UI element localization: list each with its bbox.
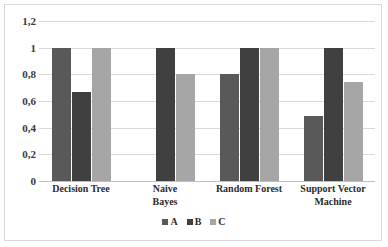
legend-item-c[interactable]: C [210, 217, 225, 227]
y-axis-tick-label: 0,4 [6, 122, 36, 133]
chart-legend: ABC [5, 217, 383, 227]
x-axis-category-label-line: Decision Tree [39, 183, 123, 196]
y-axis-tick-label: 0,6 [6, 96, 36, 107]
y-axis: 1,210,80,60,40,20 [5, 21, 36, 181]
bars-layer [39, 21, 375, 181]
bar-b-2 [240, 48, 259, 181]
bar-a-2 [220, 74, 239, 181]
bar-c-1 [176, 74, 195, 181]
x-axis-category-label: Random Forest [207, 183, 291, 196]
legend-swatch-icon [187, 219, 193, 225]
x-axis-category-label-line: Naive [123, 183, 207, 196]
x-axis: Decision TreeNaiveBayesRandom ForestSupp… [39, 183, 375, 219]
bar-c-2 [260, 48, 279, 181]
x-axis-category-label-line: Bayes [123, 196, 207, 209]
y-axis-tick-label: 0,8 [6, 69, 36, 80]
legend-label: C [218, 217, 225, 227]
legend-label: A [170, 217, 177, 227]
x-axis-category-label: NaiveBayes [123, 183, 207, 208]
bar-c-3 [344, 82, 363, 181]
legend-item-a[interactable]: A [162, 217, 177, 227]
bar-b-0 [72, 92, 91, 181]
legend-item-b[interactable]: B [187, 217, 202, 227]
y-axis-tick-label: 1,2 [6, 16, 36, 27]
legend-swatch-icon [162, 219, 168, 225]
bar-b-3 [324, 48, 343, 181]
bar-b-1 [156, 48, 175, 181]
bar-a-0 [52, 48, 71, 181]
y-axis-tick-label: 0 [6, 176, 36, 187]
x-axis-category-label-line: Random Forest [207, 183, 291, 196]
bar-c-0 [92, 48, 111, 181]
x-axis-category-label-line: Support Vector [291, 183, 375, 196]
x-axis-category-label-line: Machine [291, 196, 375, 209]
y-axis-tick-label: 1 [6, 42, 36, 53]
x-axis-category-label: Support VectorMachine [291, 183, 375, 208]
x-axis-category-label: Decision Tree [39, 183, 123, 196]
bar-a-3 [304, 116, 323, 181]
legend-label: B [195, 217, 202, 227]
chart-container: 1,210,80,60,40,20 Decision TreeNaiveBaye… [4, 4, 382, 241]
legend-swatch-icon [210, 219, 216, 225]
y-axis-tick-label: 0,2 [6, 149, 36, 160]
axis-baseline [39, 181, 375, 182]
